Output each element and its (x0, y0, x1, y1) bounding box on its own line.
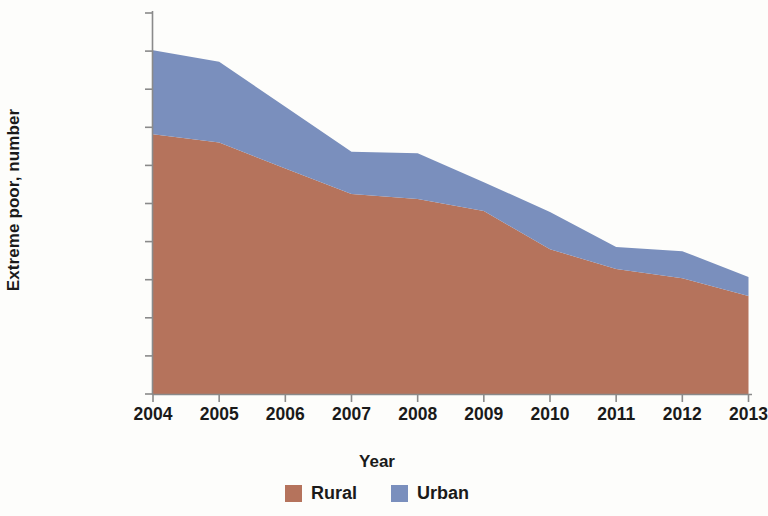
legend-label: Rural (311, 483, 357, 504)
legend-label: Urban (417, 483, 469, 504)
legend-swatch-icon (391, 485, 408, 502)
legend-item-rural[interactable]: Rural (285, 483, 357, 504)
legend-item-urban[interactable]: Urban (391, 483, 469, 504)
x-tick-label: 2006 (266, 404, 305, 425)
x-tick-label: 2007 (332, 404, 371, 425)
x-tick-label: 2004 (134, 404, 173, 425)
x-tick-label: 2009 (464, 404, 503, 425)
x-tick-label: 2011 (597, 404, 635, 425)
chart-legend: RuralUrban (0, 483, 754, 504)
area-series-layer (153, 50, 749, 394)
x-axis-title: Year (0, 452, 754, 472)
x-tick-label: 2012 (663, 404, 702, 425)
legend-swatch-icon (285, 485, 302, 502)
x-tick-label: 2010 (531, 404, 570, 425)
x-tick-label: 2005 (200, 404, 239, 425)
x-tick-label: 2013 (729, 404, 768, 425)
x-tick-label: 2008 (398, 404, 437, 425)
